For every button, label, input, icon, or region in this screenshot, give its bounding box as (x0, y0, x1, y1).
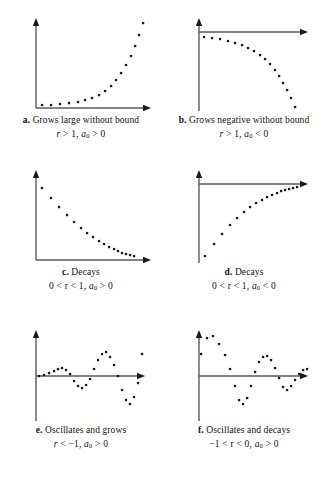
data-point (120, 72, 122, 74)
panel-e-plot (14, 324, 154, 424)
data-point (212, 335, 214, 337)
data-point (294, 106, 296, 108)
data-point (89, 378, 91, 380)
data-point (264, 58, 266, 60)
data-point (255, 202, 257, 204)
axes (33, 330, 145, 421)
data-point (274, 69, 276, 71)
data-point (266, 355, 268, 357)
data-point (276, 192, 278, 194)
panel-d-formula-left: 0 < r (212, 281, 231, 291)
data-point (80, 227, 82, 229)
data-point (271, 194, 273, 196)
data-point (73, 380, 75, 382)
data-point (254, 371, 256, 373)
data-point (241, 44, 243, 46)
data-point (218, 343, 220, 345)
data-point (229, 224, 231, 226)
data-point (129, 403, 131, 405)
panel-d-scatter-svg (177, 166, 317, 266)
panel-a-label: a. (23, 115, 30, 125)
data-point (298, 373, 300, 375)
data-point (221, 233, 223, 235)
panel-a-formula-right: > 0 (90, 129, 106, 139)
data-point (110, 85, 112, 87)
data-point (61, 367, 63, 369)
data-point (104, 90, 106, 92)
panel-c-plot (14, 166, 154, 266)
data-point (41, 104, 43, 106)
data-point (234, 385, 236, 387)
data-point (50, 197, 52, 199)
panel-a-plot (14, 14, 154, 114)
data-point (115, 79, 117, 81)
data-point (68, 102, 70, 104)
data-point (86, 232, 88, 234)
data-point (133, 396, 135, 398)
data-point (65, 369, 67, 371)
panel-e-formula: r < −1, a0 > 0 (0, 438, 162, 452)
panel-f-formula: −1 < r < 0, a0 > 0 (163, 438, 325, 452)
data-point (121, 252, 123, 254)
data-point (224, 354, 226, 356)
data-point (274, 367, 276, 369)
data-point (142, 22, 144, 24)
data-point (234, 42, 236, 44)
data-point (200, 353, 202, 355)
data-point (109, 356, 111, 358)
panel-e-caption-text: Oscillates and grows (45, 425, 126, 435)
data-point (249, 206, 251, 208)
data-point (204, 255, 206, 257)
data-point (117, 375, 119, 377)
panel-c-formula: 0 < r < 1, a0 > 0 (0, 280, 162, 294)
axes (196, 170, 308, 263)
data-point (98, 240, 100, 242)
panel-b-dots (203, 36, 296, 108)
panel-f-dots (200, 335, 308, 405)
panel-c-formula-left: 0 < r (49, 281, 68, 291)
panel-a-formula: r > 1, a0 > 0 (0, 128, 162, 142)
data-point (133, 255, 135, 257)
data-point (258, 361, 260, 363)
panel-c-formula-mid: < 1, (68, 281, 89, 291)
data-point (259, 54, 261, 56)
panel-d-formula-right: < 0 (260, 281, 276, 291)
data-point (203, 36, 205, 38)
data-point (73, 221, 75, 223)
data-point (93, 368, 95, 370)
panel-c-caption-text: Decays (71, 267, 100, 277)
data-point (270, 359, 272, 361)
data-point (77, 101, 79, 103)
data-point (92, 236, 94, 238)
data-point (290, 385, 292, 387)
data-point (97, 359, 99, 361)
panel-b-scatter-svg (177, 14, 317, 114)
data-point (50, 104, 52, 106)
panel-e-label: e. (36, 425, 43, 435)
panel-e-caption: e. Oscillates and grows (0, 424, 162, 436)
data-point (269, 63, 271, 65)
panel-d-plot (177, 166, 317, 266)
data-point (261, 199, 263, 201)
panel-b-caption: b. Grows negative without bound (163, 114, 325, 126)
data-point (41, 187, 43, 189)
data-point (213, 243, 215, 245)
data-point (138, 34, 140, 36)
panel-d-dots (204, 186, 298, 257)
panel-d-formula-mid: < 1, (231, 281, 252, 291)
data-point (247, 47, 249, 49)
data-point (53, 370, 55, 372)
data-point (69, 373, 71, 375)
data-point (58, 206, 60, 208)
data-point (129, 254, 131, 256)
panel-f-formula-left: −1 < r (209, 439, 234, 449)
data-point (286, 389, 288, 391)
data-point (262, 356, 264, 358)
data-point (59, 103, 61, 105)
data-point (77, 385, 79, 387)
panel-f-scatter-svg (177, 324, 317, 424)
panel-b-formula-right: < 0 (253, 129, 269, 139)
panel-a-dots (41, 22, 144, 106)
panel-c-dots (41, 187, 135, 257)
data-point (238, 399, 240, 401)
